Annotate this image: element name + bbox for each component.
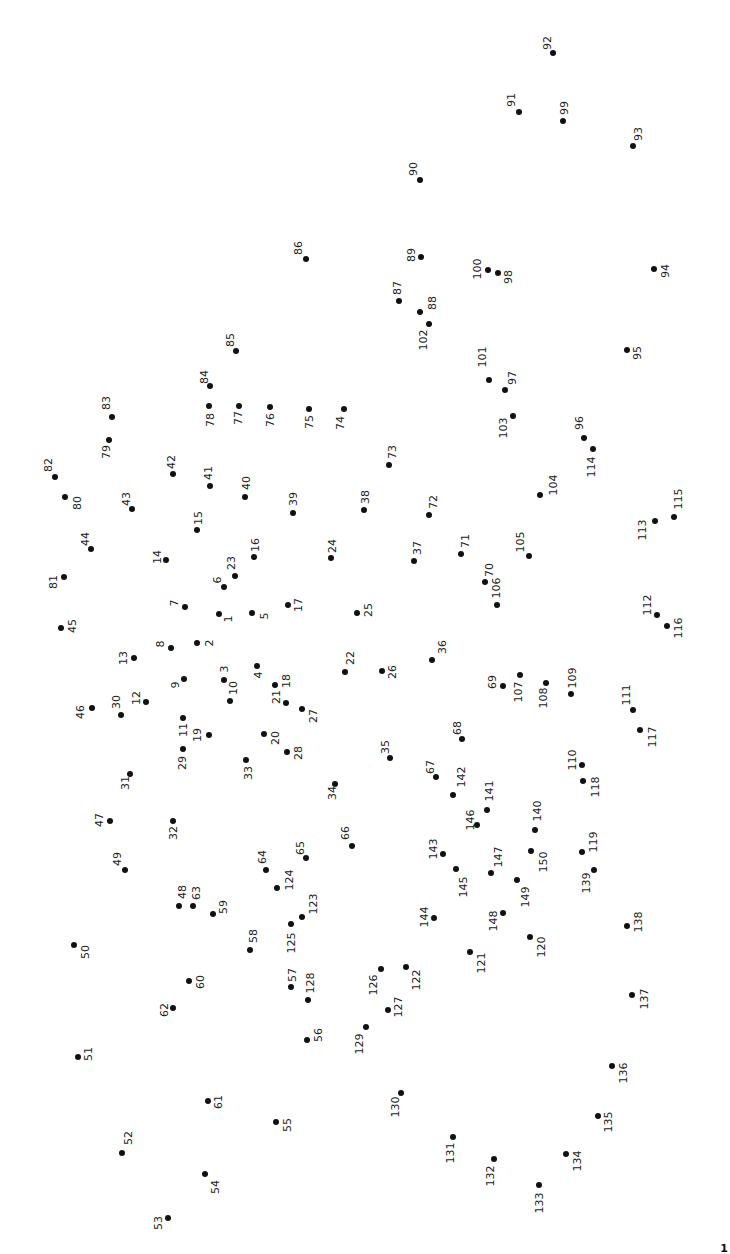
dot-104: [537, 492, 543, 498]
dot-label: 145: [458, 877, 469, 898]
dot-55: [273, 1119, 279, 1125]
dot-135: [595, 1113, 601, 1119]
dot-62: [170, 1005, 176, 1011]
dot-119: [579, 849, 585, 855]
dot-126: [378, 966, 384, 972]
page-corner-mark: 1: [720, 1243, 728, 1254]
dot-150: [528, 848, 534, 854]
dot-76: [267, 404, 273, 410]
dot-label: 121: [476, 953, 487, 974]
dot-label: 148: [488, 911, 499, 932]
dot-109: [568, 691, 574, 697]
dot-57: [288, 984, 294, 990]
dot-label: 16: [250, 538, 261, 552]
dot-label: 25: [363, 603, 374, 617]
dot-label: 82: [43, 458, 54, 472]
dot-72: [426, 512, 432, 518]
dot-label: 108: [538, 688, 549, 709]
dot-121: [467, 949, 473, 955]
dot-15: [194, 527, 200, 533]
dot-label: 15: [193, 511, 204, 525]
dot-label: 122: [411, 970, 422, 991]
dot-113: [652, 518, 658, 524]
dot-106: [494, 602, 500, 608]
dot-label: 90: [408, 162, 419, 176]
dot-73: [386, 462, 392, 468]
dot-label: 88: [427, 296, 438, 310]
dot-label: 78: [205, 413, 216, 427]
dot-label: 47: [94, 813, 105, 827]
dot-label: 97: [507, 371, 518, 385]
dot-63: [190, 903, 196, 909]
dot-label: 144: [419, 907, 430, 928]
dot-79: [106, 437, 112, 443]
dot-label: 83: [101, 396, 112, 410]
dot-label: 19: [192, 728, 203, 742]
dot-label: 119: [588, 832, 599, 853]
dot-label: 13: [118, 651, 129, 665]
dot-114: [590, 446, 596, 452]
dot-label: 58: [248, 929, 259, 943]
dot-label: 10: [228, 681, 239, 695]
dot-label: 37: [412, 541, 423, 555]
dot-label: 59: [218, 900, 229, 914]
dot-label: 8: [155, 641, 166, 648]
dot-9: [181, 676, 187, 682]
dot-label: 30: [111, 695, 122, 709]
dot-47: [107, 818, 113, 824]
dot-label: 63: [191, 886, 202, 900]
dot-label: 100: [472, 259, 483, 280]
dot-label: 18: [281, 674, 292, 688]
dot-105: [526, 553, 532, 559]
dot-label: 50: [80, 945, 91, 959]
dot-label: 146: [465, 810, 476, 831]
dot-label: 55: [282, 1118, 293, 1132]
dot-label: 26: [387, 665, 398, 679]
dot-label: 143: [428, 839, 439, 860]
dot-122: [403, 964, 409, 970]
dot-label: 14: [152, 550, 163, 564]
dot-label: 40: [241, 476, 252, 490]
dot-label: 99: [559, 101, 570, 115]
dot-134: [563, 1151, 569, 1157]
dot-123: [299, 914, 305, 920]
dot-label: 73: [387, 445, 398, 459]
dot-10: [227, 698, 233, 704]
dot-label: 21: [271, 690, 282, 704]
dot-label: 124: [284, 870, 295, 891]
dot-21: [283, 700, 289, 706]
dot-label: 74: [335, 416, 346, 430]
dot-label: 85: [225, 333, 236, 347]
dot-label: 64: [257, 850, 268, 864]
dot-96: [581, 435, 587, 441]
dot-90: [417, 177, 423, 183]
dot-label: 132: [485, 1166, 496, 1187]
dot-label: 75: [304, 415, 315, 429]
dot-16: [251, 554, 257, 560]
dot-label: 24: [327, 539, 338, 553]
dot-label: 57: [287, 968, 298, 982]
dot-label: 103: [498, 418, 509, 439]
dot-label: 48: [177, 885, 188, 899]
dot-label: 70: [484, 563, 495, 577]
dot-label: 110: [567, 750, 578, 771]
dot-label: 69: [487, 675, 498, 689]
dot-49: [122, 867, 128, 873]
dot-108: [543, 680, 549, 686]
dot-145: [453, 866, 459, 872]
dot-144: [431, 915, 437, 921]
dot-label: 56: [313, 1028, 324, 1042]
dot-label: 135: [603, 1112, 614, 1133]
dot-68: [459, 736, 465, 742]
dot-label: 137: [639, 989, 650, 1010]
dot-label: 42: [166, 455, 177, 469]
dot-80: [62, 494, 68, 500]
dot-54: [202, 1171, 208, 1177]
dot-label: 126: [368, 975, 379, 996]
dot-label: 66: [340, 826, 351, 840]
dot-115: [671, 514, 677, 520]
dot-141: [484, 807, 490, 813]
dot-label: 39: [288, 492, 299, 506]
dot-label: 127: [393, 997, 404, 1018]
dot-147: [488, 870, 494, 876]
